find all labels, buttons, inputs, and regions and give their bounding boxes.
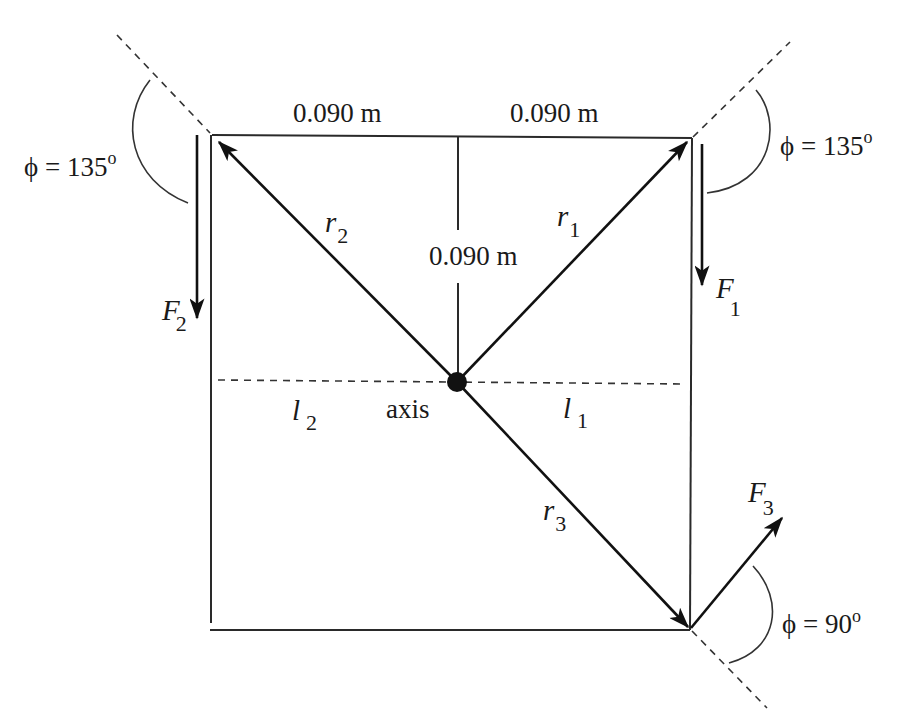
angle-label-top-right: ϕ = 135o: [780, 127, 872, 161]
label-l1: l1: [563, 392, 588, 433]
dashed-extension-top-left: [117, 35, 210, 133]
label-F1: F1: [715, 272, 741, 321]
diagram-canvas: 0.090 m 0.090 m 0.090 m axis r2 r1 r3 F2…: [0, 0, 902, 723]
label-r3: r3: [543, 494, 566, 536]
vector-r3: [457, 382, 688, 627]
torque-diagram: 0.090 m 0.090 m 0.090 m axis r2 r1 r3 F2…: [0, 0, 902, 723]
angle-arc-bottom-right: [729, 566, 772, 663]
label-r2: r2: [325, 206, 348, 248]
dimension-label-vertical: 0.090 m: [429, 241, 518, 271]
dimension-label-top-left: 0.090 m: [293, 98, 382, 128]
label-F2: F2: [161, 294, 187, 336]
label-F3: F3: [747, 476, 774, 520]
axis-label: axis: [386, 394, 430, 424]
dashed-extension-bottom-right: [692, 631, 767, 708]
label-r1: r1: [557, 200, 580, 242]
angle-label-bottom-right: ϕ = 90o: [782, 606, 861, 639]
angle-arc-top-left: [133, 80, 188, 203]
label-l2: l2: [292, 394, 317, 435]
vector-r2: [219, 142, 457, 382]
plate-right-edge: [690, 138, 692, 630]
axis-pivot-dot: [447, 372, 467, 392]
dashed-extension-top-right: [693, 42, 790, 137]
force-F3-arrow: [691, 518, 782, 628]
plate-top-edge: [212, 135, 692, 138]
angle-arc-top-right: [707, 90, 770, 193]
dimension-label-top-right: 0.090 m: [510, 98, 599, 128]
angle-label-top-left: ϕ = 135o: [24, 148, 116, 182]
